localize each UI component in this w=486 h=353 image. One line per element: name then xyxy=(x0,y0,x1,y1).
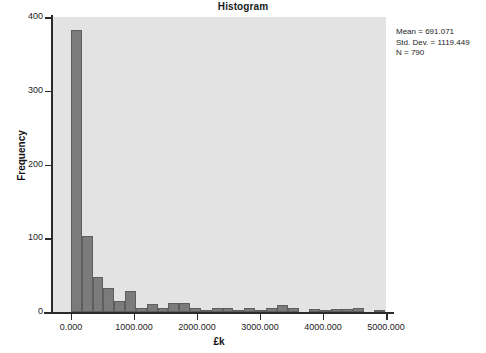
statistics-annotation: Mean = 691.071 Std. Dev. = 1119.449 N = … xyxy=(396,27,470,59)
x-axis-tick xyxy=(197,313,199,320)
x-axis-tick-label: 5000.000 xyxy=(346,322,426,332)
histogram-bar xyxy=(82,236,93,312)
x-axis-tick xyxy=(323,313,325,320)
x-axis-tick xyxy=(260,313,262,320)
histogram-bar xyxy=(114,301,125,312)
chart-title: Histogram xyxy=(0,1,486,12)
y-axis-tick xyxy=(45,312,52,314)
y-axis-tick-label: 0 xyxy=(0,306,43,316)
y-axis-tick xyxy=(45,17,52,19)
x-axis-tick xyxy=(386,313,388,320)
x-axis-tick xyxy=(134,313,136,320)
plot-area xyxy=(52,17,386,312)
y-axis-tick xyxy=(45,238,52,240)
histogram-bar xyxy=(277,305,288,312)
y-axis-tick-label: 100 xyxy=(0,232,43,242)
y-axis-tick-label: 400 xyxy=(0,11,43,21)
histogram-bar xyxy=(93,277,104,312)
y-axis-title: Frequency xyxy=(16,96,27,216)
histogram-bar xyxy=(71,30,82,312)
histogram-chart: Histogram 0100200300400 0.0001000.000200… xyxy=(0,0,486,353)
histogram-bar xyxy=(168,303,179,312)
mean-label: Mean = 691.071 xyxy=(396,27,470,38)
histogram-bar xyxy=(125,291,136,312)
y-axis-tick xyxy=(45,165,52,167)
sample-size-label: N = 790 xyxy=(396,48,470,59)
x-axis-line xyxy=(44,312,394,314)
histogram-bar xyxy=(147,304,158,312)
y-axis-tick xyxy=(45,91,52,93)
std-dev-label: Std. Dev. = 1119.449 xyxy=(396,38,470,49)
histogram-bar xyxy=(179,303,190,312)
y-axis-tick-label: 300 xyxy=(0,85,43,95)
histogram-bar xyxy=(103,288,114,312)
x-axis-title: £k xyxy=(52,336,386,347)
x-axis-tick xyxy=(71,313,73,320)
bars-layer xyxy=(52,17,386,312)
